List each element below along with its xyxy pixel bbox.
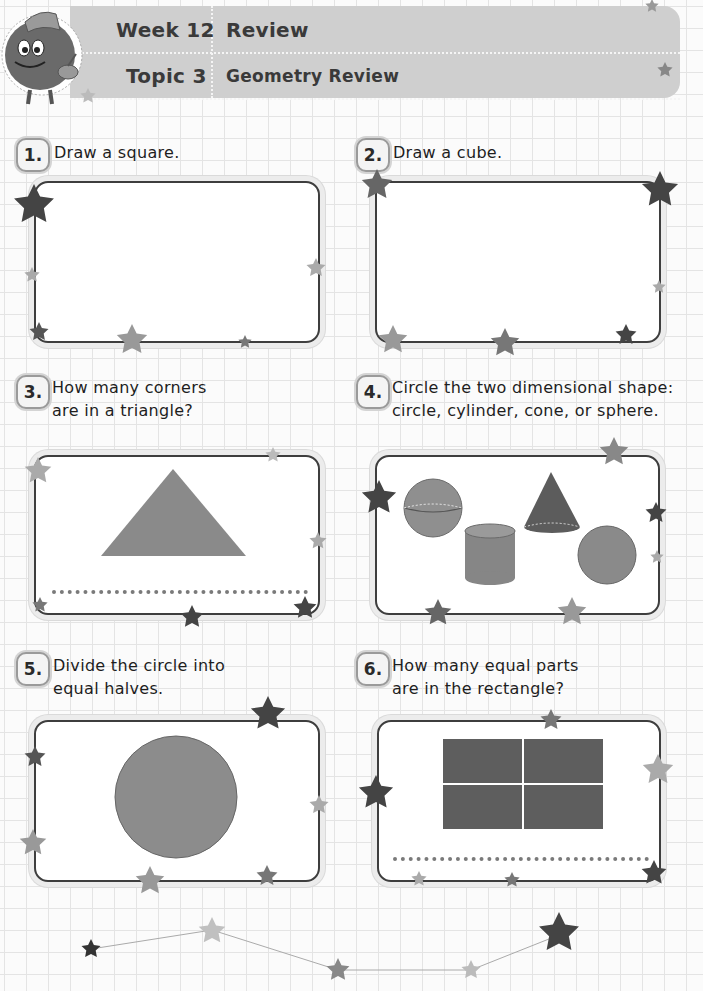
question-5-line-2: equal halves. <box>53 677 225 700</box>
question-text-3: How many corners are in a triangle? <box>52 376 207 422</box>
question-3-line-1: How many corners <box>52 376 207 399</box>
question-1-line-1: Draw a square. <box>54 141 180 164</box>
answer-line-3[interactable] <box>52 590 308 594</box>
question-text-4: Circle the two dimensional shape: circle… <box>392 376 673 422</box>
header-banner: Week 12 Review Topic 3 Geometry Review <box>70 6 680 98</box>
question-4-line-2: circle, cylinder, cone, or sphere. <box>392 399 673 422</box>
week-label: Week 12 <box>116 18 215 42</box>
question-6-line-1: How many equal parts <box>392 654 579 677</box>
answer-box-1[interactable] <box>34 181 320 343</box>
question-number-6: 6. <box>356 652 390 686</box>
week-title: Review <box>226 18 309 42</box>
answer-box-2[interactable] <box>375 181 661 343</box>
question-number-4: 4. <box>356 375 390 409</box>
question-2-line-1: Draw a cube. <box>393 141 502 164</box>
question-5-line-1: Divide the circle into <box>53 654 225 677</box>
question-text-6: How many equal parts are in the rectangl… <box>392 654 579 700</box>
mascot-icon <box>0 0 100 108</box>
question-number-1: 1. <box>16 138 50 172</box>
question-text-1: Draw a square. <box>54 141 180 164</box>
footer-constellation <box>82 912 579 980</box>
question-3-line-2: are in a triangle? <box>52 399 207 422</box>
question-text-5: Divide the circle into equal halves. <box>53 654 225 700</box>
answer-line-6[interactable] <box>393 857 649 861</box>
question-text-2: Draw a cube. <box>393 141 502 164</box>
question-number-2: 2. <box>356 138 390 172</box>
topic-title: Geometry Review <box>226 66 399 86</box>
question-number-5: 5. <box>16 652 50 686</box>
topic-label: Topic 3 <box>126 64 207 88</box>
answer-box-5 <box>34 720 320 882</box>
question-number-3: 3. <box>16 375 50 409</box>
question-6-line-2: are in the rectangle? <box>392 677 579 700</box>
question-4-line-1: Circle the two dimensional shape: <box>392 376 673 399</box>
answer-box-4 <box>375 455 660 615</box>
